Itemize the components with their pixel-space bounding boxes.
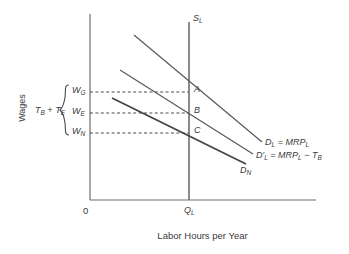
point-label-a: A [194, 85, 200, 94]
demand-curve-label-dl-prime: D′L = MRPL − TB [256, 150, 322, 160]
x-tick-label-ql: QL [184, 206, 195, 215]
wage-label-wn: WN [72, 127, 85, 136]
demand-curve-label-dn: DN [240, 165, 251, 175]
point-label-b: B [194, 106, 200, 115]
plot-canvas [0, 0, 349, 254]
point-label-c: C [194, 126, 201, 135]
brace-label-tb-te: TB + TE [35, 106, 65, 115]
y-axis-title: Wages [17, 78, 27, 138]
origin-label: 0 [83, 206, 88, 216]
wage-label-we: WE [72, 107, 85, 116]
demand-curve-label-dl: DL = MRPL [265, 137, 309, 147]
x-axis-title: Labor Hours per Year [90, 230, 315, 241]
wage-label-wg: WG [72, 86, 86, 95]
economics-figure: Wages TB + TE WG WE WN SL A B C DL = MRP… [0, 0, 349, 254]
supply-curve-label: SL [193, 14, 203, 23]
